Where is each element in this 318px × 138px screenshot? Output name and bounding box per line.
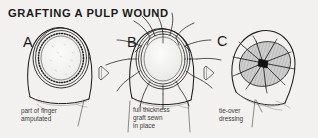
panel-a: A part of finger amputated: [21, 28, 92, 126]
caption-b-line3: in place: [133, 122, 155, 130]
arrow-b-to-c: [204, 66, 214, 80]
arrow-a-to-b: [99, 66, 109, 80]
figure-title: GRAFTING A PULP WOUND: [8, 7, 169, 19]
panel-c: C tie-over dressing: [217, 30, 297, 127]
panel-letter-b: B: [127, 34, 137, 50]
caption-c-line1: tie-over: [219, 107, 241, 114]
caption-b-line2: graft sewn: [133, 114, 163, 122]
caption-a-line1: part of finger: [21, 107, 58, 115]
panel-letter-a: A: [23, 34, 33, 50]
caption-c-line2: dressing: [219, 115, 244, 123]
caption-b-line1: full thickness: [133, 106, 170, 113]
caption-a-line2: amputated: [21, 115, 52, 123]
figure-grafting-a-pulp-wound: GRAFTING A PULP WOUND: [0, 0, 318, 138]
panel-letter-c: C: [217, 33, 227, 49]
illustration-canvas: GRAFTING A PULP WOUND: [0, 0, 318, 138]
